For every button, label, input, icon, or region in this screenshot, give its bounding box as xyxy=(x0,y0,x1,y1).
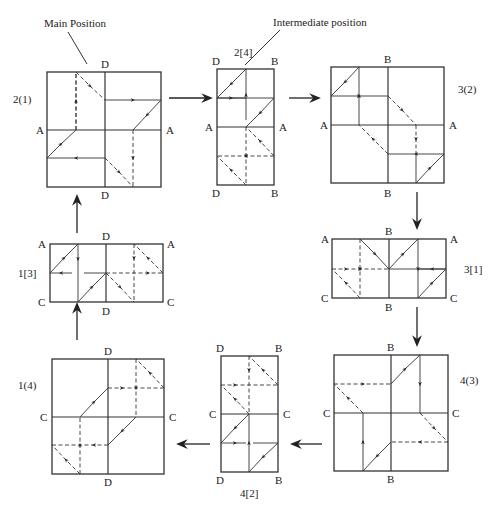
corner-label: A xyxy=(205,121,213,133)
panel-label: 1[3] xyxy=(18,267,36,279)
main-position-label: Main Position xyxy=(44,17,107,29)
corner-label: A xyxy=(167,238,175,250)
corner-label: D xyxy=(102,230,110,242)
corner-label: D xyxy=(216,342,224,354)
corner-label: A xyxy=(38,238,46,250)
corner-label: A xyxy=(321,233,329,245)
corner-label: D xyxy=(212,55,220,67)
corner-label: C xyxy=(452,407,459,419)
corner-label: C xyxy=(450,292,457,304)
corner-label: A xyxy=(450,233,458,245)
corner-label: D xyxy=(101,58,109,70)
corner-label: D xyxy=(101,189,109,201)
panel-1-4: D D C C 1(4) xyxy=(18,345,176,488)
corner-label: C xyxy=(40,411,47,423)
corner-label: D xyxy=(102,305,110,317)
corner-label: B xyxy=(385,301,392,313)
corner-label: B xyxy=(384,53,391,65)
corner-label: C xyxy=(38,296,45,308)
panel-label: 2[4] xyxy=(234,46,252,58)
panel-4-2: D B C C D B 4[2] xyxy=(209,342,290,499)
corner-label: B xyxy=(387,473,394,485)
panel-label: 2(1) xyxy=(13,93,32,106)
corner-label: B xyxy=(387,341,394,353)
panel-2-1: D D A A 2(1) xyxy=(13,58,174,201)
main-position-annotation: Main Position xyxy=(44,17,107,64)
panel-label: 1(4) xyxy=(18,379,37,392)
corner-label: D xyxy=(216,474,224,486)
corner-label: B xyxy=(271,187,278,199)
corner-label: C xyxy=(209,408,216,420)
panel-label: 4[2] xyxy=(240,487,258,499)
corner-label: C xyxy=(167,296,174,308)
panel-1-3: A D A C D C 1[3] xyxy=(18,230,175,317)
folding-sequence-diagram: Main Position Intermediate position D D … xyxy=(0,0,496,508)
corner-label: D xyxy=(104,476,112,488)
corner-label: C xyxy=(321,292,328,304)
corner-label: A xyxy=(449,119,457,131)
panel-3-2: B B A A 3(2) xyxy=(320,53,477,199)
corner-label: B xyxy=(275,342,282,354)
corner-label: A xyxy=(320,119,328,131)
panel-4-3: B B C C 4(3) xyxy=(323,341,479,485)
corner-label: B xyxy=(275,474,282,486)
corner-label: A xyxy=(166,124,174,136)
flow-arrows xyxy=(77,98,417,444)
panel-label: 4(3) xyxy=(460,374,479,387)
intermediate-position-annotation: Intermediate position xyxy=(245,16,367,65)
panel-3-1: A B A C B C 3[1] xyxy=(321,225,482,313)
corner-label: C xyxy=(323,407,330,419)
panel-2-4: D B A A D B 2[4] xyxy=(205,46,287,199)
corner-label: B xyxy=(384,187,391,199)
corner-label: A xyxy=(36,124,44,136)
intermediate-position-label: Intermediate position xyxy=(273,16,367,28)
corner-label: C xyxy=(169,411,176,423)
panel-label: 3[1] xyxy=(464,263,482,275)
corner-label: B xyxy=(385,225,392,237)
corner-label: A xyxy=(279,121,287,133)
corner-label: D xyxy=(212,187,220,199)
corner-label: D xyxy=(104,345,112,357)
corner-label: C xyxy=(283,408,290,420)
panel-label: 3(2) xyxy=(458,83,477,96)
corner-label: B xyxy=(271,55,278,67)
